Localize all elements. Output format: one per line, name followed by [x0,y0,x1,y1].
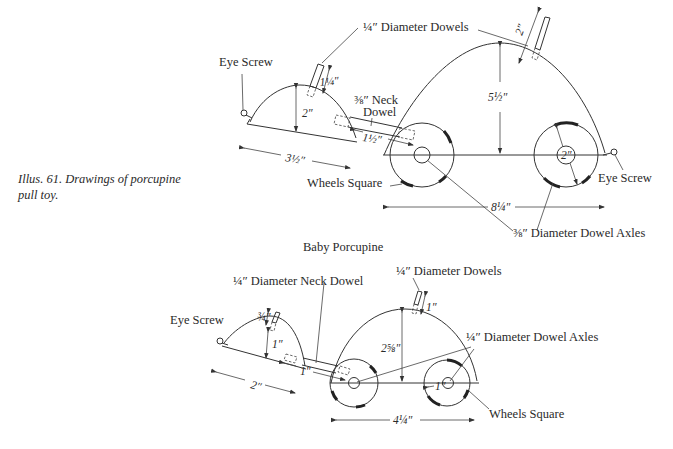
baby-neck-dim-right [313,372,345,380]
baby-head-height-dim [266,332,268,358]
baby-neck-dowel: ¼″ Diameter Neck Dowel 1″ [233,274,364,380]
caption-line-1: Illus. 61. Drawings of porcupine [17,172,181,186]
baby-body-outline [331,309,477,383]
figure-caption: Illus. 61. Drawings of porcupine pull to… [17,172,181,202]
head-base-end [247,119,250,124]
head-length-dim-right [312,161,350,168]
baby-head-quill-label: ¾″ [257,311,271,323]
baby-neck-dowel-leader [316,283,324,363]
caption-line-2: pull toy. [17,188,58,202]
baby-dowels-leader [413,278,419,290]
baby-body-length-label: 4¼″ [393,414,412,426]
baby-head-length-dim-right [265,385,295,393]
eye-screw-leader-left [242,74,243,110]
wheel-square-mark [447,360,462,366]
neck-dowel-leader [371,118,372,126]
eye-screw-label-left: Eye Screw [219,55,273,69]
dowels-label: ¼″ Diameter Dowels [363,20,469,34]
baby-wheels-square-leader [469,391,489,409]
baby-porcupine-title: Baby Porcupine [303,240,384,254]
wheel-square-mark [444,131,451,143]
neck-dowel-hidden-head [334,115,350,127]
body-quill-label: 2″ [513,22,528,36]
axles-leader-front [427,160,513,231]
body-quill-dim [519,12,538,63]
baby-head: 1″ ¾″ 2″ Eye Screw [170,311,306,393]
wheels-square-leader [390,184,402,186]
baby-axles-leader-front [357,347,471,382]
wheel-square-mark [439,176,446,182]
baby-body-height-label: 2⅝″ [381,342,400,354]
baby-axles-label: ¼″ Diameter Dowel Axles [466,330,598,344]
baby-neck-dim-left [284,363,296,366]
eye-screw-shank-left [246,115,252,118]
baby-neck-dowel-hidden-head [284,354,297,363]
wheel-square-mark [401,181,413,186]
baby-head-outline [224,316,305,366]
baby-eye-screw-shank [222,343,228,345]
large-neck-dowel: ⅜″ Neck Dowel 1½″ [334,93,415,146]
large-porcupine: 2″ 1¼″ 3½″ Eye Screw ⅜″ Ne [219,12,652,240]
wheel-square-mark [428,396,440,405]
porcupine-pull-toy-drawing: Illus. 61. Drawings of porcupine pull to… [0,0,673,449]
baby-wheels-square-label: Wheels Square [489,407,565,421]
eye-screw-leader-right [615,155,623,170]
baby-head-length-label: 2″ [249,378,262,392]
axles-label: ⅜″ Diameter Dowel Axles [513,226,645,240]
wheel-square-mark [370,366,376,373]
neck-dowel-hidden-body [398,128,415,140]
body-height-label: 5½″ [488,91,507,103]
body-quill-dowel [535,17,550,50]
wheel-square-mark [582,176,590,183]
wheel-diameter-label: 2″ [561,149,572,161]
neck-dowel-dim-left [355,130,363,132]
head-quill: 1¼″ [307,64,339,97]
wheel-square-mark [332,391,337,400]
wheel-square-mark [356,405,365,407]
axles-leader-rear [537,183,553,230]
baby-wheel-diameter-label: 1″ [435,380,446,392]
baby-head-height-label: 1″ [272,338,283,350]
wheels-square-label: Wheels Square [307,176,383,190]
baby-neck-dowel-hidden-body [338,366,350,375]
eye-screw-icon-right [611,149,617,155]
head-quill-label: 1¼″ [319,74,339,88]
body-quill: 2″ [513,12,550,63]
head-length-label: 3½″ [284,151,306,166]
neck-dowel-label-2: Dowel [363,105,397,119]
baby-head-length-dim-left [216,372,245,380]
baby-wheel-dim [428,386,434,387]
dowels-leader-head [322,28,358,63]
head-base [247,124,357,142]
baby-eye-screw-label: Eye Screw [170,313,224,327]
baby-axles-leader-rear [450,349,474,381]
baby-body-quill [414,291,422,305]
baby-head-quill-hidden [270,322,276,331]
neck-dowel-length-label: 1½″ [362,131,383,146]
baby-dowels-label: ¼″ Diameter Dowels [396,264,502,278]
head-length-dim-left [244,148,281,155]
large-head: 2″ 1¼″ 3½″ Eye Screw [219,55,357,168]
baby-body-quill-hidden [412,304,418,314]
head-height-label: 2″ [302,107,313,119]
wheel-square-mark [555,123,578,125]
wheel-diameter-dim [570,163,577,184]
baby-neck-dowel-label: ¼″ Diameter Neck Dowel [233,274,364,288]
wheel-diameter-dim [557,128,563,147]
body-length-label: 8¼″ [491,201,510,213]
eye-screw-label-right: Eye Screw [598,171,652,185]
baby-neck-length-label: 1″ [300,365,311,377]
baby-porcupine: Baby Porcupine 1″ ¾″ 2″ Eye Screw ¼″ D [170,240,598,426]
wheel-square-mark [464,390,468,398]
baby-body-quill-label: 1″ [426,301,437,313]
